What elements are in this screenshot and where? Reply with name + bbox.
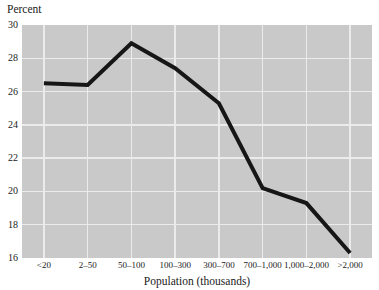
plot-background: [22, 25, 372, 258]
y-tick-label: 16: [0, 252, 18, 264]
y-tick-label: 28: [0, 52, 18, 64]
x-tick-label: 50–100: [118, 260, 145, 271]
x-tick-label: >2,000: [337, 260, 362, 271]
x-tick-label: 2–50: [79, 260, 97, 271]
line-chart: Percent 1618202224262830<202–5050–100100…: [0, 0, 379, 290]
y-tick-label: 30: [0, 19, 18, 31]
x-axis-title: Population (thousands): [144, 274, 250, 288]
x-tick-label: 300–700: [203, 260, 235, 271]
y-tick-label: 24: [0, 119, 18, 131]
x-tick-label: <20: [37, 260, 51, 271]
x-tick-label: 1,000–2,000: [284, 260, 329, 271]
y-tick-label: 22: [0, 152, 18, 164]
y-tick-label: 18: [0, 219, 18, 231]
plot-area: [22, 25, 372, 258]
y-tick-label: 26: [0, 86, 18, 98]
x-tick-label: 100–300: [159, 260, 191, 271]
x-tick-label: 700–1,000: [244, 260, 282, 271]
y-tick-label: 20: [0, 185, 18, 197]
y-axis-title: Percent: [7, 3, 41, 16]
